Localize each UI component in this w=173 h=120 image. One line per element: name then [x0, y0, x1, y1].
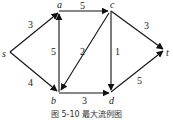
figure-caption: 图 5-10 最大流例图: [0, 108, 173, 119]
max-flow-graph: s a c t b d 3 4 5 5 2 1 3 3 5: [0, 0, 173, 120]
capacity-b-d: 3: [82, 95, 87, 106]
node-label-s: s: [2, 48, 6, 59]
edge-c-b: [61, 13, 109, 90]
node-label-a: a: [57, 0, 62, 10]
capacity-c-d: 1: [115, 46, 120, 57]
edge-s-b: [10, 52, 57, 91]
capacity-b-a: 5: [51, 46, 56, 57]
node-label-t: t: [166, 47, 169, 58]
capacity-c-t: 3: [144, 20, 149, 31]
node-label-c: c: [110, 0, 115, 10]
edge-c-t: [111, 11, 163, 49]
node-label-d: d: [109, 95, 115, 106]
capacity-s-b: 4: [28, 77, 33, 88]
capacity-d-t: 5: [137, 75, 142, 86]
node-label-b: b: [51, 95, 56, 106]
capacity-s-a: 3: [28, 19, 33, 30]
capacity-c-b: 2: [80, 46, 85, 57]
capacity-a-c: 5: [80, 0, 85, 11]
